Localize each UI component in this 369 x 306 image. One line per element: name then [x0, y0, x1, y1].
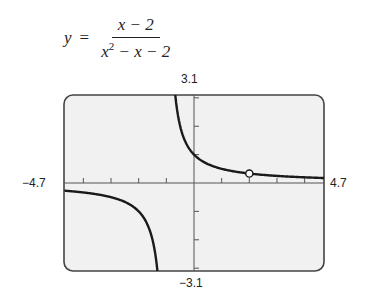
graph-screen	[0, 0, 369, 306]
hole-marker	[246, 170, 253, 177]
